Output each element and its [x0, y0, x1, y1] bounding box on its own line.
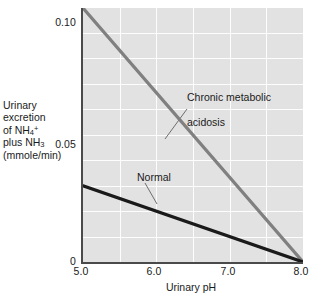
xtick-label-8.0: 8.0 [281, 266, 316, 277]
figure-root: Chronic metabolic acidosis Normal 0.10 0… [0, 0, 316, 298]
annotation-normal: Normal [137, 171, 171, 183]
xtick-label-5.0: 5.0 [61, 266, 101, 277]
x-axis-title: Urinary pH [81, 281, 301, 293]
y-axis-title-nh4-text: of NH [3, 124, 30, 136]
plot-area: Chronic metabolic acidosis Normal [81, 8, 303, 264]
annotation-chronic-metabolic-acidosis: Chronic metabolic acidosis [187, 79, 271, 140]
xtick-label-7.0: 7.0 [208, 266, 248, 277]
y-axis-title-nh3-text: plus NH [3, 136, 40, 148]
annotation-acidosis-line-1: Chronic metabolic [187, 91, 271, 103]
y-axis-title-line-3: of NH4+ [3, 124, 77, 136]
y-axis-title-nh4-superscript: + [34, 124, 38, 133]
y-axis-title-units: (mmole/min) [3, 149, 77, 161]
leader-line-normal [145, 183, 157, 204]
ytick-label-0.10: 0.10 [40, 17, 76, 28]
y-axis-title-line-2: excretion [3, 111, 77, 123]
annotation-acidosis-line-2: acidosis [187, 116, 271, 128]
y-axis-title-line-1: Urinary [3, 99, 77, 111]
y-axis-title: Urinary excretion of NH4+ plus NH3 (mmol… [3, 99, 77, 161]
y-axis-title-line-4: plus NH3 [3, 136, 77, 148]
xtick-label-6.0: 6.0 [134, 266, 174, 277]
